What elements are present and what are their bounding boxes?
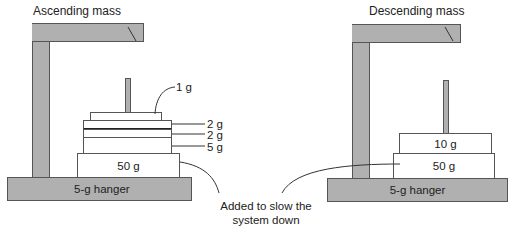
leader-lines: [0, 0, 513, 226]
